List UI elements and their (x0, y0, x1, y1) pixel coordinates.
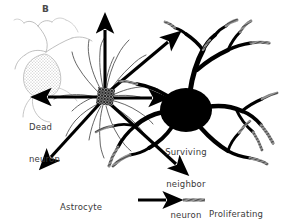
label-astrocyte-line1: Astrocyte (60, 202, 120, 213)
label-proliferating-dendritic-material: Proliferating dendritic material (209, 188, 263, 223)
label-astrocyte: Astrocyte secreting trophic factor (60, 181, 120, 223)
label-dead-neuron-line2: neuron (29, 154, 60, 165)
panel-letter: B (42, 4, 49, 15)
figure-panel-b: B Dead neuron Surviving neighbor neuron … (0, 0, 285, 223)
label-proliferating-line1: Proliferating (209, 209, 263, 220)
astrocyte-soma (96, 87, 115, 106)
label-dead-neuron-line1: Dead (29, 122, 60, 133)
label-surviving-neuron-line1: Surviving (154, 147, 218, 158)
label-dead-neuron: Dead neuron (29, 101, 60, 185)
arrow-upper-right (106, 42, 168, 94)
